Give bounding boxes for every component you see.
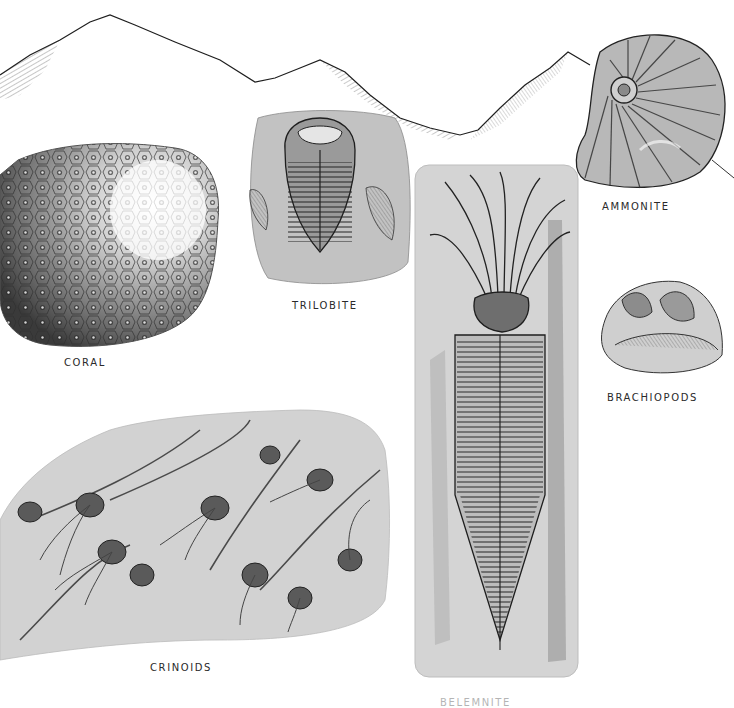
belemnite-figure bbox=[415, 165, 578, 677]
crinoids-figure bbox=[0, 410, 390, 660]
label-coral: CORAL bbox=[64, 357, 106, 368]
label-trilobite: TRILOBITE bbox=[292, 300, 358, 311]
label-belemnite: BELEMNITE bbox=[440, 697, 511, 708]
label-crinoids: CRINOIDS bbox=[150, 662, 212, 673]
trilobite-figure bbox=[250, 111, 410, 284]
label-brachiopods: BRACHIOPODS bbox=[607, 392, 698, 403]
ammonite-figure bbox=[576, 35, 725, 188]
label-ammonite: AMMONITE bbox=[602, 201, 670, 212]
coral-figure bbox=[0, 144, 219, 347]
brachiopods-figure bbox=[602, 281, 723, 373]
